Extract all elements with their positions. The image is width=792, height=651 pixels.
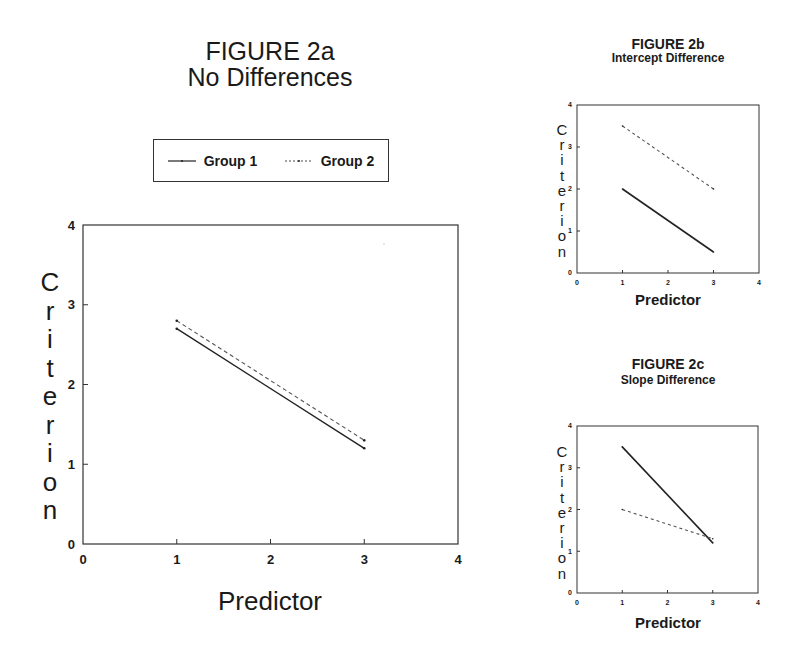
series-line-group-1 <box>177 329 365 449</box>
series-line-group-1 <box>623 189 714 252</box>
y-tick-label: 1 <box>568 548 572 555</box>
plot-frame <box>577 105 759 273</box>
y-tick-label: 1 <box>568 227 572 234</box>
y-tick-label: 1 <box>68 457 75 472</box>
x-tick-label: 4 <box>757 279 761 286</box>
x-tick-label: 2 <box>666 279 670 286</box>
data-point <box>622 188 624 190</box>
data-point <box>363 447 366 450</box>
data-point <box>621 446 623 448</box>
x-tick-label: 1 <box>620 599 624 606</box>
series-line-group-1 <box>622 447 713 543</box>
data-point <box>363 439 366 442</box>
series-line-group-2 <box>623 126 714 189</box>
data-point <box>175 319 178 322</box>
y-tick-label: 3 <box>68 297 75 312</box>
y-tick-label: 4 <box>568 101 572 108</box>
y-tick-label: 3 <box>568 143 572 150</box>
speck-artifact <box>383 243 384 244</box>
series-line-group-2 <box>177 321 365 441</box>
plots-canvas: 0123401234 0123401234 0123401234 <box>0 0 792 651</box>
data-point <box>712 542 714 544</box>
x-tick-label: 1 <box>621 279 625 286</box>
data-point <box>621 509 623 511</box>
y-tick-label: 0 <box>568 269 572 276</box>
series-line-group-2 <box>622 510 713 539</box>
data-point <box>713 188 715 190</box>
y-tick-label: 4 <box>68 218 76 233</box>
x-tick-label: 3 <box>361 552 368 567</box>
figure-2a-plot: 0123401234 <box>68 218 463 568</box>
data-point <box>713 251 715 253</box>
x-tick-label: 2 <box>666 599 670 606</box>
y-tick-label: 4 <box>568 422 572 429</box>
x-tick-label: 3 <box>711 599 715 606</box>
figure-2b-plot: 0123401234 <box>568 101 761 285</box>
x-tick-label: 1 <box>173 552 180 567</box>
data-point <box>712 538 714 540</box>
y-tick-label: 2 <box>68 377 75 392</box>
data-point <box>175 327 178 330</box>
x-tick-label: 4 <box>756 599 760 606</box>
x-tick-label: 0 <box>575 279 579 286</box>
y-tick-label: 2 <box>568 506 572 513</box>
x-tick-label: 3 <box>712 279 716 286</box>
figure-2c-plot: 0123401234 <box>568 422 760 605</box>
plot-frame <box>577 426 758 593</box>
x-tick-label: 4 <box>454 552 462 567</box>
plot-frame <box>83 225 458 544</box>
y-tick-label: 0 <box>68 537 75 552</box>
y-tick-label: 2 <box>568 185 572 192</box>
x-tick-label: 0 <box>79 552 86 567</box>
data-point <box>622 125 624 127</box>
x-tick-label: 2 <box>267 552 274 567</box>
y-tick-label: 0 <box>568 589 572 596</box>
x-tick-label: 0 <box>575 599 579 606</box>
y-tick-label: 3 <box>568 464 572 471</box>
